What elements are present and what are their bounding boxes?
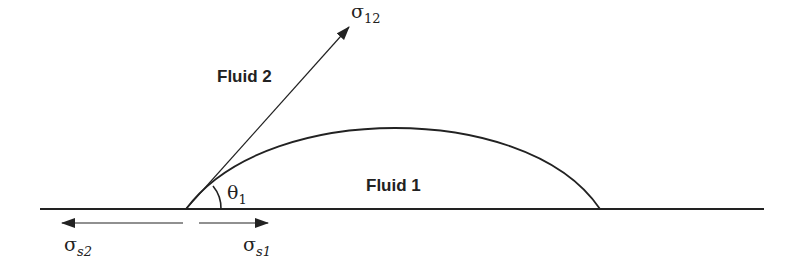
sigma-s1-label: σs1 [243, 233, 271, 259]
sigma12-arrow [186, 27, 349, 209]
theta1-label: θ1 [227, 181, 247, 207]
fluid1-label: Fluid 1 [366, 176, 421, 195]
fluid2-label: Fluid 2 [217, 67, 272, 86]
sigma-s2-label: σs2 [64, 233, 92, 259]
contact-angle-diagram: Fluid 2 Fluid 1 σ12 θ1 σs2 σs1 [0, 0, 795, 273]
theta1-angle-arc [213, 186, 221, 209]
sigma12-label: σ12 [351, 0, 381, 26]
